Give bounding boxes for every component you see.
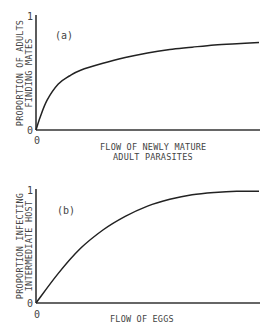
y-tick-1-a: 1 — [27, 11, 33, 22]
y-tick-0-a: 0 — [27, 125, 33, 136]
x-tick-0-a: 0 — [34, 135, 40, 146]
x-label-b: FLOW OF EGGS — [110, 314, 174, 324]
panel-label-a: (a) — [55, 30, 73, 41]
y-tick-1-b: 1 — [27, 185, 33, 196]
y-label-b-line2: INTERMEDIATE HOST — [24, 201, 34, 291]
x-label-a-line1: FLOW OF NEWLY MATURE — [100, 142, 206, 152]
figure: 1 0 0 (a) FLOW OF NEWLY MATURE ADULT PAR… — [0, 0, 269, 329]
chart-b: 1 0 0 (b) FLOW OF EGGS PROPORTION INFECT… — [15, 185, 260, 324]
curve-a — [36, 43, 259, 130]
panel-label-b: (b) — [57, 205, 75, 216]
x-tick-0-b: 0 — [34, 309, 40, 320]
chart-a: 1 0 0 (a) FLOW OF NEWLY MATURE ADULT PAR… — [15, 11, 260, 162]
x-label-a-line2: ADULT PARASITES — [113, 152, 193, 162]
y-label-a-line2: FINDING MATES — [24, 38, 34, 107]
y-tick-0-b: 0 — [27, 298, 33, 309]
